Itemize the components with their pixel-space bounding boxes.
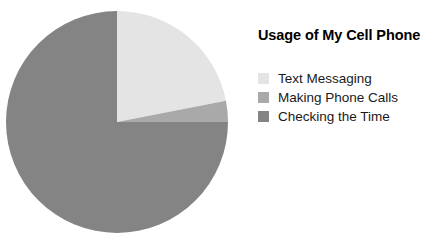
legend-swatch-icon xyxy=(258,92,269,103)
legend-item-label: Text Messaging xyxy=(278,69,372,88)
chart-title: Usage of My Cell Phone xyxy=(258,26,444,44)
pie-chart xyxy=(6,11,228,233)
legend-item-label: Checking the Time xyxy=(278,107,390,126)
legend-items: Text Messaging Making Phone Calls Checki… xyxy=(258,69,444,126)
legend-item-making-phone-calls: Making Phone Calls xyxy=(258,88,444,107)
legend-item-label: Making Phone Calls xyxy=(278,88,398,107)
legend-swatch-icon xyxy=(258,73,269,84)
legend-swatch-icon xyxy=(258,111,269,122)
legend-item-text-messaging: Text Messaging xyxy=(258,69,444,88)
pie-chart-svg xyxy=(6,11,228,233)
legend-item-checking-the-time: Checking the Time xyxy=(258,107,444,126)
legend: Usage of My Cell Phone Text Messaging Ma… xyxy=(258,26,444,126)
pie-slice-group xyxy=(6,11,228,233)
pie-chart-figure: Usage of My Cell Phone Text Messaging Ma… xyxy=(0,0,447,245)
